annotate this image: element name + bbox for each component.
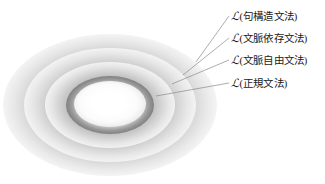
label-text: 文脈依存文法 [243,33,304,44]
script-l-icon: ℒ [231,32,240,44]
script-l-icon: ℒ [231,77,240,89]
figure-canvas: ℒ(句構造文法) ℒ(文脈依存文法) ℒ(文脈自由文法) ℒ(正規文法) [0,0,325,184]
ellipse-core-glow [74,81,146,127]
label-close-paren: ) [284,78,288,89]
label-context-free-grammar: ℒ(文脈自由文法) [231,55,307,67]
label-regular-grammar: ℒ(正規文法) [231,78,287,90]
label-text: 文脈自由文法 [243,55,304,66]
label-context-sensitive-grammar: ℒ(文脈依存文法) [231,33,307,45]
label-phrase-structure-grammar: ℒ(句構造文法) [231,11,297,23]
label-close-paren: ) [304,55,308,66]
label-close-paren: ) [294,11,298,22]
script-l-icon: ℒ [231,10,240,22]
script-l-icon: ℒ [231,54,240,66]
nested-ellipses-diagram [0,0,325,184]
label-text: 正規文法 [243,78,283,89]
label-close-paren: ) [304,33,308,44]
label-text: 句構造文法 [243,11,294,22]
leader-line-phrase-structure [196,16,229,62]
